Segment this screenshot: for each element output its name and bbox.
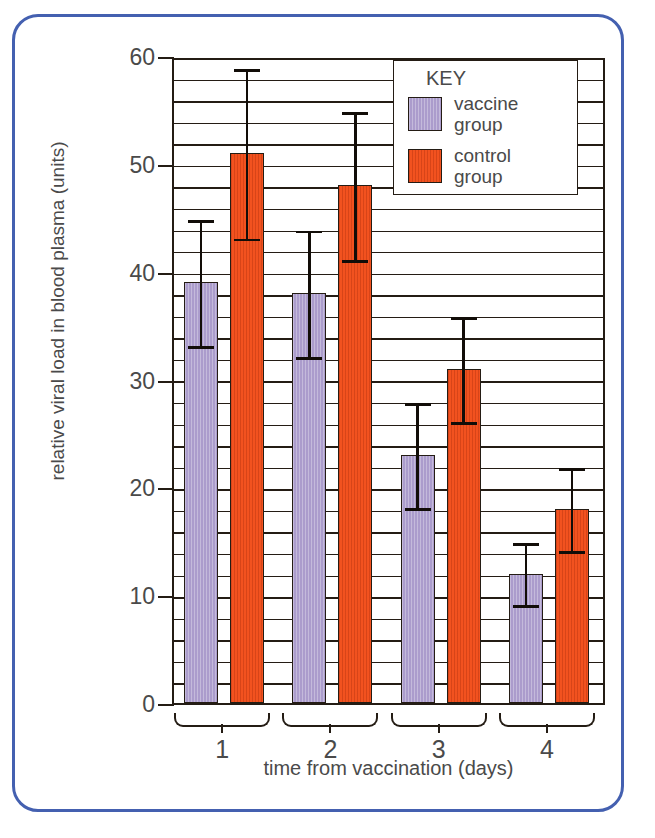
legend-swatch-icon-vaccine bbox=[408, 97, 442, 131]
legend-label-vaccine: vaccine group bbox=[454, 94, 518, 135]
error-bar-cap-bottom bbox=[513, 605, 539, 608]
legend-key: KEY vaccine group control group bbox=[393, 60, 578, 195]
error-bar-control-day-2 bbox=[338, 112, 372, 263]
error-bar-cap-bottom bbox=[234, 239, 260, 242]
error-bar-stem bbox=[525, 543, 527, 608]
legend-label-control: control group bbox=[454, 146, 511, 187]
legend-swatch-icon-control bbox=[408, 149, 442, 183]
y-axis-tick-label: 0 bbox=[5, 693, 155, 716]
legend-title: KEY bbox=[426, 67, 466, 90]
error-bar-stem bbox=[246, 69, 248, 242]
y-axis-tick-label: 10 bbox=[5, 585, 155, 608]
error-bar-stem bbox=[416, 403, 418, 511]
y-axis-tick-label: 20 bbox=[5, 477, 155, 500]
y-axis-tick-label: 40 bbox=[5, 262, 155, 285]
error-bar-cap-bottom bbox=[451, 422, 477, 425]
y-axis-tick-label: 60 bbox=[5, 46, 155, 69]
bar-chart: 0102030405060 relative viral load in blo… bbox=[0, 0, 655, 838]
error-bar-control-day-3 bbox=[447, 317, 481, 425]
y-axis-tick-labels: 0102030405060 bbox=[0, 0, 155, 838]
error-bar-stem bbox=[308, 231, 310, 360]
error-bar-cap-bottom bbox=[559, 551, 585, 554]
error-bar-stem bbox=[200, 220, 202, 349]
error-bar-stem bbox=[354, 112, 356, 263]
error-bar-cap-bottom bbox=[188, 346, 214, 349]
x-axis-brace-day-3 bbox=[391, 713, 487, 727]
error-bar-stem bbox=[462, 317, 464, 425]
y-axis-title: relative viral load in blood plasma (uni… bbox=[47, 101, 69, 521]
bar-control-day-2 bbox=[338, 185, 372, 703]
error-bar-cap-bottom bbox=[342, 260, 368, 263]
error-bar-control-day-1 bbox=[230, 69, 264, 242]
error-bar-vaccine-day-1 bbox=[184, 220, 218, 349]
error-bar-cap-bottom bbox=[405, 508, 431, 511]
error-bar-control-day-4 bbox=[555, 468, 589, 554]
plot-right-border bbox=[603, 58, 605, 703]
y-axis-tick-label: 30 bbox=[5, 370, 155, 393]
error-bar-vaccine-day-2 bbox=[292, 231, 326, 360]
x-axis-title: time from vaccination (days) bbox=[172, 757, 605, 780]
error-bar-cap-bottom bbox=[296, 357, 322, 360]
error-bar-vaccine-day-3 bbox=[401, 403, 435, 511]
x-axis-brace-day-4 bbox=[499, 713, 595, 727]
x-axis-brace-day-1 bbox=[174, 713, 270, 727]
y-axis-tick-label: 50 bbox=[5, 154, 155, 177]
error-bar-vaccine-day-4 bbox=[509, 543, 543, 608]
error-bar-stem bbox=[571, 468, 573, 554]
x-axis-brace-day-2 bbox=[282, 713, 378, 727]
